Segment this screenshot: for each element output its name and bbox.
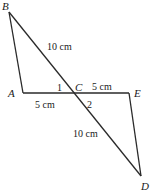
measurement-CE: 5 cm: [92, 81, 112, 92]
point-label-C: C: [75, 81, 83, 93]
segment-BD: [9, 12, 141, 176]
angle-label-2: 2: [87, 99, 92, 110]
point-label-A: A: [7, 87, 15, 99]
angle-label-1: 1: [57, 82, 62, 93]
point-label-D: D: [140, 180, 149, 192]
measurement-CD: 10 cm: [73, 128, 98, 139]
point-label-E: E: [133, 87, 141, 99]
segment-AB: [9, 12, 23, 93]
geometry-diagram: B A C E D 10 cm 5 cm 5 cm 10 cm 1 2: [0, 0, 150, 192]
point-label-B: B: [2, 0, 9, 12]
measurement-AC: 5 cm: [35, 99, 55, 110]
measurement-BC: 10 cm: [47, 41, 72, 52]
